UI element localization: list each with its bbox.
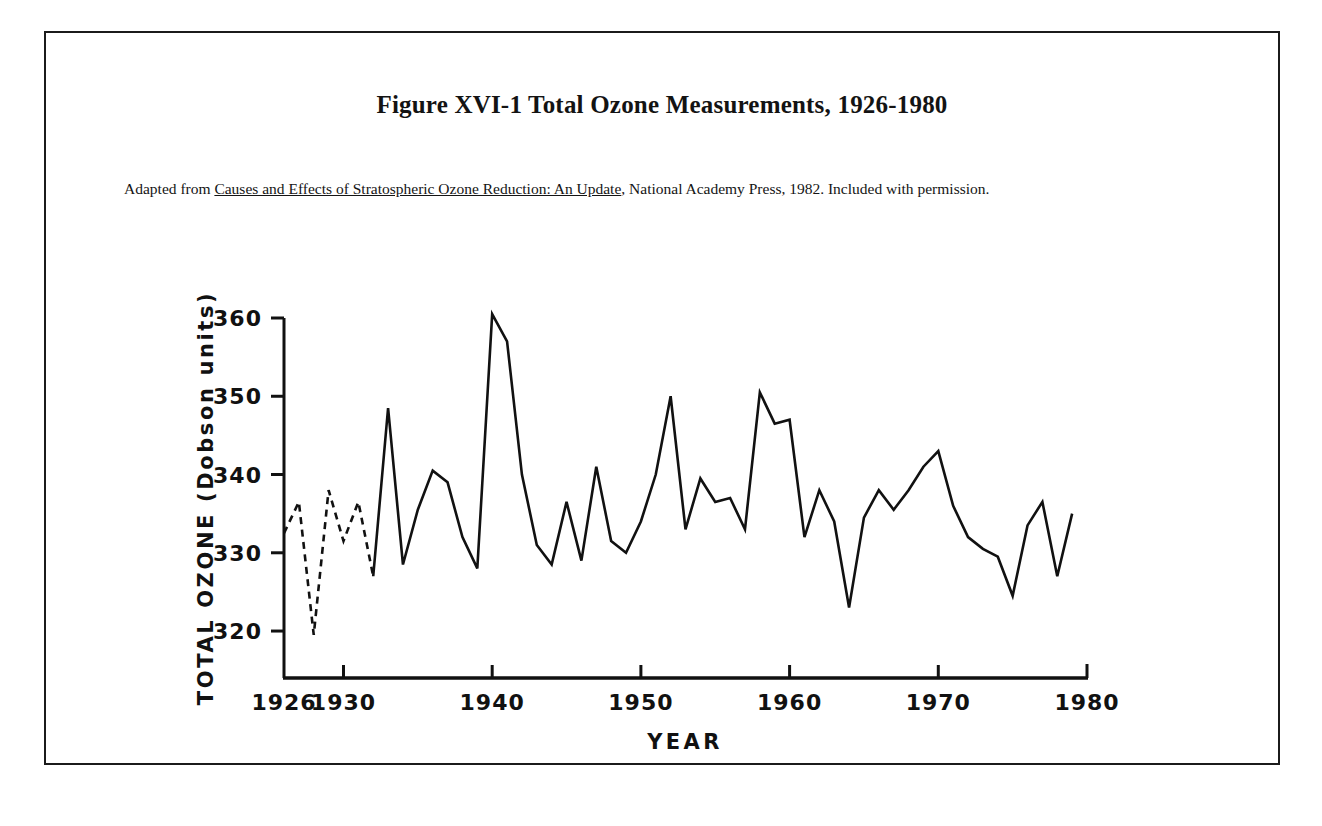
x-tick-label: 1926 — [251, 690, 316, 715]
x-tick-label: 1960 — [757, 690, 822, 715]
chart-svg: 320330340350360 192619301940195019601970… — [46, 33, 1282, 767]
x-tick-group: 1926193019401950196019701980 — [251, 665, 1119, 715]
x-tick-label: 1970 — [906, 690, 971, 715]
ozone-line-chart: 320330340350360 192619301940195019601970… — [46, 33, 1282, 767]
x-axis-group — [283, 664, 1088, 678]
data-series-group — [284, 314, 1072, 635]
y-axis-title: TOTAL OZONE (Dobson units) — [194, 291, 218, 706]
y-tick-label: 320 — [213, 619, 262, 644]
x-tick-label: 1980 — [1054, 690, 1119, 715]
figure-frame: Figure XVI-1 Total Ozone Measurements, 1… — [44, 31, 1280, 765]
y-tick-label: 360 — [213, 306, 262, 331]
x-axis-title: YEAR — [646, 730, 723, 754]
y-tick-label: 330 — [213, 541, 262, 566]
x-tick-label: 1940 — [460, 690, 525, 715]
y-tick-group: 320330340350360 — [213, 306, 284, 644]
x-tick-label: 1930 — [311, 690, 376, 715]
x-tick-label: 1950 — [608, 690, 673, 715]
data-line-dashed — [284, 490, 373, 635]
data-line-solid — [373, 314, 1072, 607]
y-tick-label: 340 — [213, 463, 262, 488]
y-tick-label: 350 — [213, 384, 262, 409]
